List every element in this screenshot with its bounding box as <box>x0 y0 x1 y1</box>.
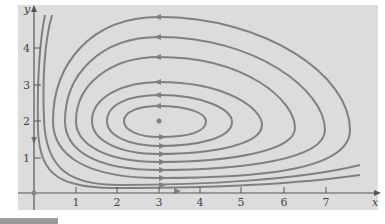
y-tick-label: 3 <box>23 79 30 92</box>
y-tick-label: 1 <box>23 152 30 165</box>
x-tick-label: 7 <box>323 196 330 209</box>
x-axis-label: x <box>372 196 379 209</box>
y-tick-label: 4 <box>23 42 30 55</box>
x-tick-label: 6 <box>281 196 288 209</box>
x-tick-label: 1 <box>73 196 80 209</box>
y-tick-label: 2 <box>23 115 30 128</box>
x-tick-label: 4 <box>197 196 204 209</box>
x-tick-label: 3 <box>156 196 163 209</box>
x-tick-label: 5 <box>238 196 245 209</box>
decorative-bar <box>0 218 58 224</box>
x-tick-label: 2 <box>114 196 121 209</box>
equilibrium-point <box>157 119 162 124</box>
phase-portrait-diagram: 1 2 3 4 5 6 7 x 1 2 3 4 y <box>0 0 385 224</box>
y-axis-label: y <box>23 3 31 16</box>
origin-point <box>32 191 37 196</box>
